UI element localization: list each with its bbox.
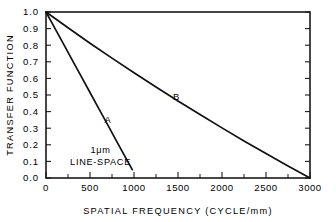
y-tick-label: 0.6	[23, 73, 39, 84]
line-space-annotation-line2: LINE-SPACE	[70, 157, 131, 167]
y-axis-tick-labels: 0.00.10.20.30.40.50.60.70.80.91.0	[23, 6, 39, 183]
y-tick-label: 0.8	[23, 40, 39, 51]
y-tick-label: 0.5	[23, 89, 39, 100]
y-axis-title: TRANSFER FUNCTION	[5, 34, 15, 156]
x-tick-label: 2000	[210, 182, 233, 193]
y-tick-label: 0.7	[23, 56, 39, 67]
curve-label-B: B	[173, 91, 179, 102]
y-tick-label: 0.1	[23, 156, 39, 167]
x-tick-label: 500	[81, 182, 99, 193]
curve-A	[46, 12, 132, 170]
curve-label-A: A	[104, 114, 111, 125]
chart-annotations: 1μmLINE-SPACE	[70, 145, 131, 167]
x-axis-title: SPATIAL FREQUENCY (CYCLE/mm)	[83, 206, 273, 216]
y-tick-label: 0.0	[23, 172, 39, 183]
transfer-function-chart: 0.00.10.20.30.40.50.60.70.80.91.0 050010…	[0, 0, 336, 222]
line-space-annotation-line1: 1μm	[90, 145, 110, 155]
y-tick-label: 0.2	[23, 139, 39, 150]
x-tick-label: 1500	[166, 182, 189, 193]
x-tick-label: 3000	[298, 182, 321, 193]
x-tick-label: 1000	[122, 182, 145, 193]
y-tick-label: 0.4	[23, 106, 39, 117]
y-tick-label: 1.0	[23, 6, 39, 17]
x-tick-label: 2500	[254, 182, 277, 193]
y-tick-label: 0.9	[23, 23, 39, 34]
y-tick-label: 0.3	[23, 123, 39, 134]
x-axis-tick-labels: 050010001500200025003000	[43, 182, 322, 193]
curve-labels: AB	[104, 91, 179, 125]
x-tick-label: 0	[43, 182, 49, 193]
x-axis-ticks	[46, 172, 310, 178]
chart-figure: 0.00.10.20.30.40.50.60.70.80.91.0 050010…	[0, 0, 336, 222]
